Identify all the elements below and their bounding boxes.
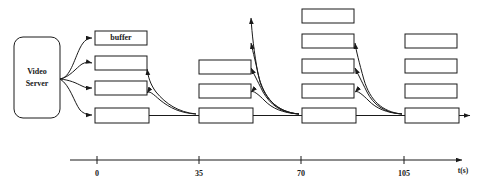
- block-t105-3: [405, 84, 457, 98]
- server-fanout-arrows: [60, 38, 92, 115]
- arrow-t105-box-3: [355, 91, 402, 114]
- time-axis: 0 35 70 105 t(s): [70, 156, 469, 178]
- block-t0-3: [95, 81, 147, 95]
- block-t0-4: [95, 108, 149, 123]
- fanout-t0-to-t35: [147, 69, 196, 114]
- group-t105: [405, 34, 459, 123]
- group-t70: [302, 9, 356, 123]
- arrow-t105-box-2: [355, 68, 402, 114]
- block-t70-5: [302, 108, 356, 123]
- block-t105-1: [405, 34, 457, 48]
- block-t0-1-label: buffer: [110, 33, 132, 42]
- block-t0-2: [95, 56, 147, 70]
- block-t70-2: [302, 34, 354, 48]
- arrow-server-to-box-4: [60, 79, 92, 115]
- video-server-box: [14, 37, 60, 118]
- block-t105-4: [405, 108, 459, 123]
- fanout-t35-to-t70: [251, 18, 299, 114]
- arrow-t70-box-2: [251, 43, 299, 114]
- video-server-label-line1: Video: [27, 67, 47, 76]
- block-t35-3: [199, 108, 253, 123]
- block-t35-1: [199, 60, 251, 74]
- tick-label-35: 35: [195, 169, 203, 178]
- arrow-server-to-box-1: [60, 38, 92, 79]
- arrow-t105-box-1: [355, 43, 402, 114]
- group-t35: [199, 60, 253, 123]
- arrow-t35-box-2: [147, 92, 196, 114]
- arrow-t70-box-1: [251, 18, 299, 114]
- block-t35-2: [199, 84, 251, 98]
- group-t0: buffer: [95, 31, 149, 123]
- video-server-node: Video Server: [14, 37, 60, 118]
- arrow-t70-box-4: [251, 91, 299, 114]
- diagram-canvas: Video Server: [0, 0, 479, 190]
- time-axis-title: t(s): [458, 166, 469, 175]
- block-t70-1: [302, 9, 354, 23]
- tick-label-105: 105: [398, 169, 410, 178]
- video-server-label-line2: Server: [26, 79, 49, 88]
- block-t105-2: [405, 59, 457, 73]
- block-t70-3: [302, 59, 354, 73]
- timeline-block-diagram: Video Server: [0, 0, 479, 190]
- tick-label-70: 70: [297, 169, 305, 178]
- fanout-t70-to-t105: [355, 43, 402, 114]
- tick-label-0: 0: [95, 169, 99, 178]
- block-t70-4: [302, 84, 354, 98]
